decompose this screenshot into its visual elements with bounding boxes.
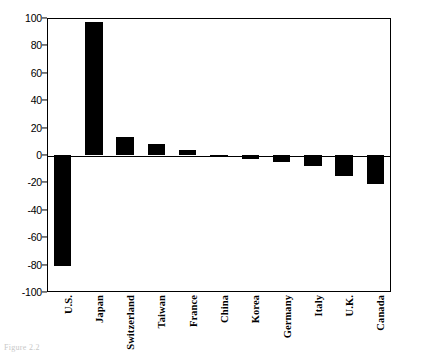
x-tick: China <box>203 293 234 341</box>
figure: 100806040200-20-40-60-80-100 U.S.JapanSw… <box>0 0 432 357</box>
bar <box>116 137 134 155</box>
x-tick: Taiwan <box>141 293 172 341</box>
x-tick: France <box>172 293 203 341</box>
x-tick-label: China <box>219 295 230 323</box>
y-tick-label: 20 <box>31 122 42 134</box>
y-tick-label: -40 <box>27 204 42 216</box>
bar-series <box>47 18 391 292</box>
x-tick: Japan <box>78 293 109 341</box>
y-tick-label: -60 <box>27 231 42 243</box>
y-tick-label: 100 <box>25 12 42 24</box>
x-axis: U.S.JapanSwitzerlandTaiwanFranceChinaKor… <box>47 293 391 341</box>
bar <box>179 150 197 155</box>
y-tick-label: 80 <box>31 39 42 51</box>
bar <box>148 144 166 155</box>
bar <box>242 155 260 159</box>
x-tick: Switzerland <box>110 293 141 341</box>
x-tick-label: Italy <box>313 295 324 317</box>
x-tick-label: France <box>188 295 199 327</box>
y-tick-label: 40 <box>31 94 42 106</box>
x-tick-label: U.S. <box>63 295 74 314</box>
x-tick: Korea <box>235 293 266 341</box>
bar <box>335 155 353 176</box>
bar <box>85 22 103 155</box>
y-tick-label: -20 <box>27 176 42 188</box>
bar <box>54 155 72 266</box>
x-tick-label: Korea <box>250 295 261 323</box>
x-tick: U.S. <box>47 293 78 341</box>
bar <box>273 155 291 162</box>
x-tick-label: Germany <box>282 295 293 338</box>
bar <box>367 155 385 184</box>
y-tick-label: -100 <box>22 286 42 298</box>
x-tick-label: Switzerland <box>125 295 136 350</box>
bar <box>304 155 322 166</box>
x-tick: Italy <box>297 293 328 341</box>
x-tick-label: Taiwan <box>156 295 167 328</box>
y-axis: 100806040200-20-40-60-80-100 <box>0 0 47 310</box>
bar <box>210 155 228 156</box>
y-tick-label: -80 <box>27 259 42 271</box>
x-tick-label: Canada <box>375 295 386 331</box>
x-tick: U.K. <box>328 293 359 341</box>
x-tick: Germany <box>266 293 297 341</box>
y-tick-label: 60 <box>31 67 42 79</box>
x-tick: Canada <box>360 293 391 341</box>
x-tick-label: Japan <box>94 295 105 323</box>
x-tick-label: U.K. <box>344 295 355 316</box>
figure-caption: Figure 2.2 <box>4 343 40 352</box>
